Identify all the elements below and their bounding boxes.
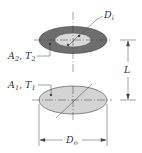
label-top-surface: A2, T2 [7, 50, 36, 63]
view-factor-diagram: Di A2, T2 A1, T1 L Do [0, 0, 142, 153]
label-outer-diameter: Do [65, 134, 78, 147]
label-bottom-surface: A1, T1 [7, 79, 36, 92]
label-inner-diameter: Di [103, 9, 114, 22]
label-separation: L [123, 64, 130, 75]
